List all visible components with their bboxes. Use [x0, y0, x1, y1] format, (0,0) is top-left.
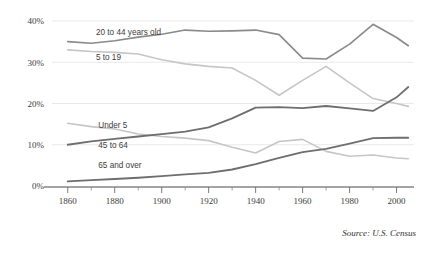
- x-tick-label-2000: 2000: [388, 196, 407, 206]
- x-tick-label-1980: 1980: [341, 196, 360, 206]
- population-age-distribution-line-chart: 0%10%20%30%40% 1860188019001920194019601…: [0, 0, 431, 260]
- x-tick-label-1880: 1880: [106, 196, 125, 206]
- series-label-20-to-44-years-old: 20 to 44 years old: [96, 28, 162, 37]
- x-tick-label-1920: 1920: [200, 196, 219, 206]
- x-tick-label-1940: 1940: [247, 196, 266, 206]
- y-tick-label-20: 20%: [28, 99, 45, 109]
- y-tick-label-40: 40%: [28, 16, 45, 26]
- y-axis-tick-labels: 0%10%20%30%40%: [28, 16, 45, 191]
- y-tick-label-30: 30%: [28, 58, 45, 68]
- x-tick-label-1860: 1860: [59, 196, 78, 206]
- y-tick-label-0: 0%: [32, 181, 45, 191]
- x-tick-label-1900: 1900: [153, 196, 172, 206]
- series-inline-labels: 20 to 44 years old5 to 19Under 545 to 64…: [96, 28, 162, 170]
- x-tick-label-1960: 1960: [294, 196, 313, 206]
- series-line-45-to-64: [68, 87, 409, 145]
- series-label-5-to-19: 5 to 19: [96, 53, 121, 62]
- x-axis: [44, 187, 414, 193]
- series-label-65-and-over: 65 and over: [98, 161, 142, 170]
- data-series-lines: [68, 24, 409, 181]
- source-note: Source: U.S. Census: [342, 228, 416, 238]
- series-label-45-to-64: 45 to 64: [98, 141, 128, 150]
- chart-figure: 0%10%20%30%40% 1860188019001920194019601…: [0, 0, 431, 260]
- x-axis-tick-labels: 18601880190019201940196019802000: [59, 196, 406, 206]
- y-tick-label-10: 10%: [28, 140, 45, 150]
- series-label-under-5: Under 5: [98, 121, 128, 130]
